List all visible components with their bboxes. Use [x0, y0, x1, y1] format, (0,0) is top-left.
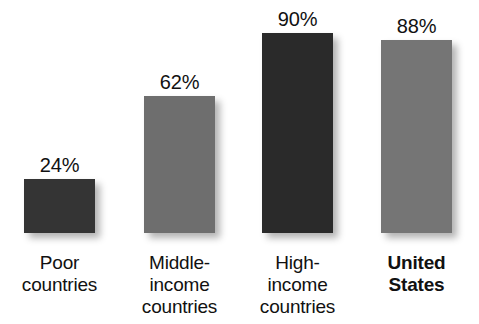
bar-value-label-united-states: 88% [381, 16, 452, 36]
plot-area: 24% Poor countries 62% Middle- income co… [0, 0, 479, 324]
category-line-2: countries [5, 274, 115, 296]
category-line-1: Poor [5, 252, 115, 274]
bar-value-label-middle-income-countries: 62% [144, 72, 215, 92]
bar-category-label-high-income-countries: High- income countries [243, 252, 353, 319]
bar-rect-united-states [381, 40, 452, 233]
bar-group-high-income-countries: 90% High- income countries [262, 0, 333, 324]
category-line-1: Middle- [125, 252, 235, 274]
category-line-2: income [243, 274, 353, 296]
bar-category-label-middle-income-countries: Middle- income countries [125, 252, 235, 319]
bar-rect-poor-countries [24, 179, 95, 233]
bar-rect-middle-income-countries [144, 96, 215, 233]
bar-group-poor-countries: 24% Poor countries [24, 0, 95, 324]
bar-group-middle-income-countries: 62% Middle- income countries [144, 0, 215, 324]
bar-category-label-poor-countries: Poor countries [5, 252, 115, 296]
bar-category-label-united-states: United States [362, 252, 472, 296]
category-line-3: countries [243, 296, 353, 318]
bar-chart: 24% Poor countries 62% Middle- income co… [0, 0, 479, 324]
bar-group-united-states: 88% United States [381, 0, 452, 324]
bar-value-label-poor-countries: 24% [24, 155, 95, 175]
category-line-2: income [125, 274, 235, 296]
category-line-1: High- [243, 252, 353, 274]
category-line-2: States [362, 274, 472, 296]
bar-value-label-high-income-countries: 90% [262, 9, 333, 29]
category-line-1: United [362, 252, 472, 274]
category-line-3: countries [125, 296, 235, 318]
bar-rect-high-income-countries [262, 33, 333, 233]
